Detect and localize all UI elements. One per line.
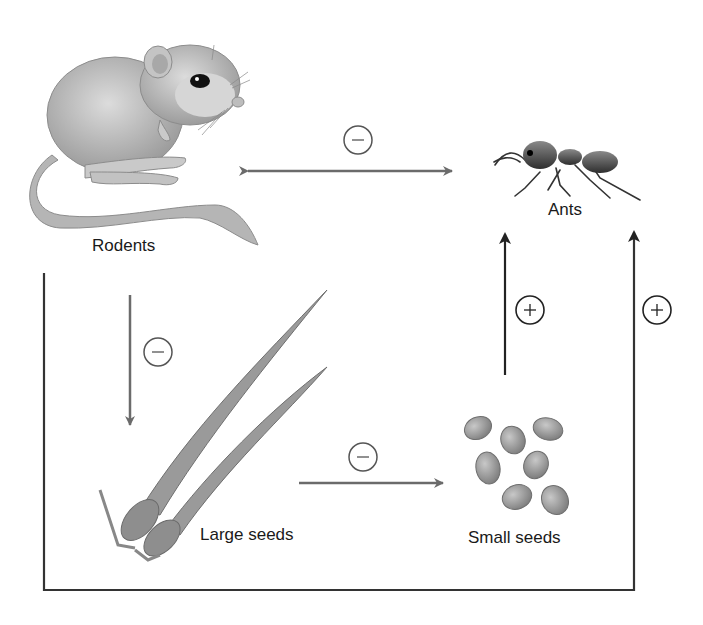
small-seeds-label: Small seeds <box>468 528 561 548</box>
ant-illustration <box>494 141 640 200</box>
ants-label: Ants <box>548 200 582 220</box>
large-seeds-label: Large seeds <box>200 525 294 545</box>
rodents-label: Rodents <box>92 236 155 256</box>
minus-sign-icon <box>349 443 377 471</box>
plus-sign-icon <box>516 296 544 324</box>
small-seeds-illustration <box>461 412 574 519</box>
diagram-canvas <box>0 0 703 625</box>
plus-sign-icon <box>643 296 671 324</box>
rodent-illustration <box>30 45 258 245</box>
large-seeds-illustration <box>100 290 327 563</box>
minus-sign-icon <box>144 338 172 366</box>
minus-sign-icon <box>344 126 372 154</box>
